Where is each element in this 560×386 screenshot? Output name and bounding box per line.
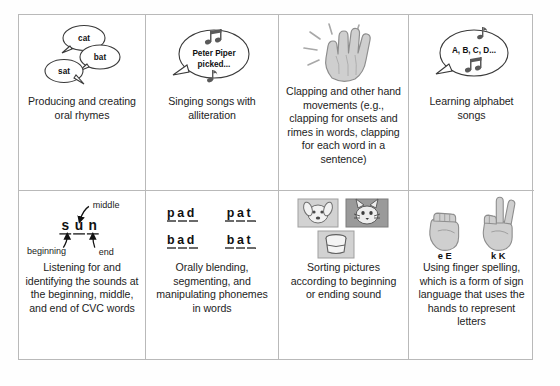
bubble-word-bat: bat [94,53,107,62]
cell-caption: Orally blending, segmenting, and manipul… [151,261,273,315]
label-beginning: beginning [27,246,66,256]
sign-label-e: e E [438,251,452,261]
picture-card-dog [298,199,338,227]
cell-caption: Learning alphabet songs [414,95,529,122]
word-bat: bat [227,233,253,247]
bubble-word-cat: cat [78,34,90,43]
word-bad: bad [167,233,197,247]
asl-hand-k [483,197,515,250]
cell-caption: Listening for and identifying the sounds… [24,261,140,315]
cell-producing-rhymes: cat bat sat Producing and creating oral … [19,15,146,191]
activities-grid: cat bat sat Producing and creating oral … [18,14,533,360]
clapping-hand-icon [284,19,403,85]
cell-caption: Sorting pictures according to beginning … [284,261,403,302]
speech-bubbles-rhyming-words-icon: cat bat sat [24,19,140,95]
letter-n: n [89,218,97,233]
bubble-line-2: picked... [198,60,231,69]
letter-u: u [75,218,83,233]
label-end: end [99,247,114,257]
bubble-alphabet-text: A, B, C, D... [451,46,495,55]
word-pad: pad [167,206,197,220]
poster-sheet: cat bat sat Producing and creating oral … [0,0,560,386]
cell-caption: Singing songs with alliteration [151,95,273,122]
cell-cvc-sounds: middle s u n [19,191,146,360]
cell-caption: Clapping and other hand movements (e.g.,… [284,85,403,167]
word-family-grid-icon: pad pat bad bat [151,195,273,261]
cell-singing-alliteration: Peter Piper picked... Singing songs with… [146,15,279,191]
cell-blending-segmenting: pad pat bad bat [146,191,279,360]
sign-label-k: k K [491,251,506,261]
speech-bubble-with-music-notes-icon: Peter Piper picked... [151,19,273,95]
picture-card-cup [318,231,354,258]
sun-phoneme-diagram-icon: middle s u n [24,195,140,261]
speech-bubble-alphabet-icon: A, B, C, D... [414,19,529,95]
picture-cards-icon [284,195,403,261]
word-pat: pat [227,206,253,220]
cell-clapping-hand-movements: Clapping and other hand movements (e.g.,… [279,15,409,191]
bubble-word-sat: sat [58,67,70,76]
label-middle: middle [93,200,120,210]
letter-s: s [61,218,69,233]
cell-caption: Using finger spelling, which is a form o… [414,261,529,329]
picture-card-cat [346,199,388,227]
cell-finger-spelling: e E k K Using finger spelling, which is … [409,191,534,360]
bubble-line-1: Peter Piper [192,49,236,58]
cell-sorting-pictures: Sorting pictures according to beginning … [279,191,409,360]
cell-caption: Producing and creating oral rhymes [24,95,140,122]
cell-alphabet-songs: A, B, C, D... Learning alphabet songs [409,15,534,191]
asl-hand-e [430,213,459,250]
asl-hand-signs-icon: e E k K [414,195,529,261]
